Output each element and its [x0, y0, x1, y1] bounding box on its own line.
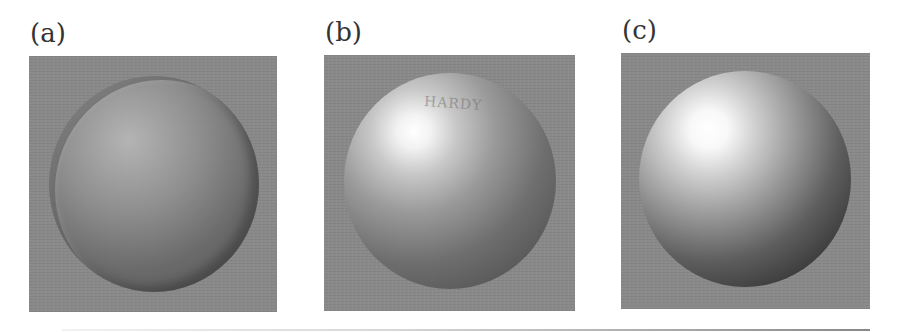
- embossed-text: HARDY: [424, 93, 483, 113]
- sphere-c: [639, 71, 851, 287]
- panel-b: HARDY: [324, 55, 575, 311]
- bottom-rule: [62, 329, 870, 331]
- panel-c: [621, 53, 870, 309]
- panel-b-label: (b): [325, 19, 362, 45]
- panel-c-label: (c): [622, 17, 657, 43]
- panel-a: [29, 56, 277, 312]
- panel-a-label: (a): [30, 20, 66, 46]
- sphere-b: HARDY: [344, 73, 556, 289]
- sphere-a-rim: [49, 76, 259, 292]
